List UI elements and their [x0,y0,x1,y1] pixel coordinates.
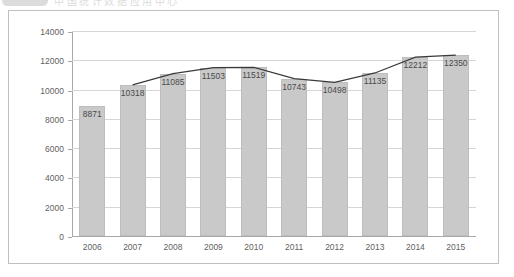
y-tick-label: 6000 [45,144,64,154]
y-tick-label: 2000 [45,203,64,213]
site-logo-badge-icon [2,0,48,6]
y-tick-label: 4000 [45,173,64,183]
x-tick-label: 2012 [325,242,344,252]
page-header-title: 中国统计数据应用中心 [54,0,180,8]
plot-area: 02000400060008000100001200014000 8871103… [72,31,476,236]
y-tick-mark [68,237,72,238]
x-tick-label: 2014 [406,242,425,252]
x-tick-label: 2010 [244,242,263,252]
gridline: 0 [72,236,476,237]
chart-panel: 02000400060008000100001200014000 8871103… [8,10,499,264]
bar-line-combo-chart: 02000400060008000100001200014000 8871103… [9,11,498,263]
trend-line-path [133,55,456,85]
x-axis-labels: 2006200720082009201020112012201320142015 [72,242,476,258]
x-tick-label: 2006 [83,242,102,252]
x-tick-label: 2011 [285,242,303,252]
y-tick-label: 10000 [40,86,64,96]
x-tick-label: 2008 [164,242,183,252]
y-tick-label: 12000 [40,56,64,66]
x-tick-label: 2007 [123,242,142,252]
trend-line-series [72,31,476,236]
x-tick-label: 2015 [446,242,465,252]
x-tick-label: 2013 [366,242,385,252]
x-tick-label: 2009 [204,242,223,252]
y-tick-label: 0 [59,232,64,242]
page-header: 中国统计数据应用中心 [0,0,514,9]
y-tick-label: 14000 [40,27,64,37]
y-tick-label: 8000 [45,115,64,125]
